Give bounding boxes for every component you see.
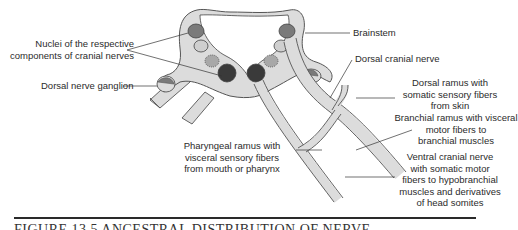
label-dorsal-ganglion: Dorsal nerve ganglion bbox=[41, 80, 133, 92]
label-dorsal-ramus: Dorsal ramus with somatic sensory fibers… bbox=[400, 77, 500, 112]
caption-rule bbox=[14, 217, 476, 219]
label-ventral-cranial-nerve: Ventral cranial nerve with somatic motor… bbox=[394, 151, 506, 209]
label-brainstem: Brainstem bbox=[353, 27, 396, 39]
label-nuclei: Nuclei of the respective components of c… bbox=[10, 38, 134, 61]
label-branchial-ramus: Branchial ramus with visceral motor fibe… bbox=[394, 112, 518, 147]
label-pharyngeal-ramus: Pharyngeal ramus with visceral sensory f… bbox=[172, 140, 292, 175]
label-dorsal-cranial-nerve: Dorsal cranial nerve bbox=[355, 53, 439, 65]
figure-caption: FIGURE 13.5 ANCESTRAL DISTRIBUTION OF NE… bbox=[14, 222, 371, 230]
